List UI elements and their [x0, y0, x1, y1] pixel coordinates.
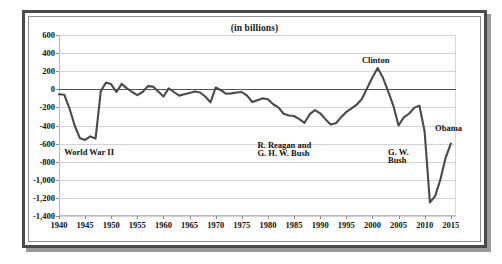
x-tick-mark — [372, 216, 373, 219]
x-tick-label: 2005 — [390, 220, 407, 230]
chart-title: (in billions) — [29, 23, 480, 33]
x-tick-mark — [451, 216, 452, 219]
x-tick-label: 1970 — [207, 220, 224, 230]
annotation-label: Clinton — [362, 55, 389, 66]
x-tick-mark — [111, 216, 112, 219]
gridline — [59, 216, 456, 217]
x-tick-mark — [294, 216, 295, 219]
x-tick-label: 2000 — [364, 220, 381, 230]
x-tick-label: 1995 — [338, 220, 355, 230]
y-tick-label: -1,200 — [33, 193, 55, 203]
plot-wrapper: 6004002000-200-400-600-800-1,000-1,200-1… — [59, 35, 456, 216]
y-tick-label: 400 — [42, 48, 55, 58]
x-tick-label: 1980 — [259, 220, 276, 230]
x-tick-label: 1975 — [233, 220, 250, 230]
y-tick-label: -400 — [39, 121, 55, 131]
y-tick-label: -200 — [39, 102, 55, 112]
x-tick-mark — [216, 216, 217, 219]
x-tick-label: 1955 — [129, 220, 146, 230]
x-tick-label: 1990 — [312, 220, 329, 230]
y-tick-label: -1,000 — [33, 175, 55, 185]
x-tick-label: 1960 — [155, 220, 172, 230]
x-tick-mark — [242, 216, 243, 219]
x-tick-mark — [85, 216, 86, 219]
annotation-label: Bush — [388, 155, 406, 166]
data-line-svg — [59, 35, 456, 216]
chart-frame-inner: (in billions) 6004002000-200-400-600-800… — [28, 16, 481, 242]
x-tick-mark — [163, 216, 164, 219]
y-tick-label: -600 — [39, 139, 55, 149]
annotation-label: G. H. W. Bush — [258, 148, 310, 159]
y-tick-label: 200 — [42, 66, 55, 76]
x-tick-label: 1965 — [181, 220, 198, 230]
chart-frame: (in billions) 6004002000-200-400-600-800… — [22, 10, 487, 248]
x-tick-mark — [346, 216, 347, 219]
x-tick-label: 2010 — [416, 220, 433, 230]
x-tick-label: 2015 — [442, 220, 459, 230]
x-tick-mark — [137, 216, 138, 219]
annotation-label: Obama — [435, 123, 462, 134]
x-tick-label: 1950 — [103, 220, 120, 230]
y-tick-label: 0 — [51, 84, 55, 94]
x-tick-mark — [320, 216, 321, 219]
y-tick-label: -800 — [39, 157, 55, 167]
x-tick-label: 1945 — [77, 220, 94, 230]
chart-figure: (in billions) 6004002000-200-400-600-800… — [0, 0, 502, 264]
x-tick-mark — [425, 216, 426, 219]
x-tick-label: 1985 — [286, 220, 303, 230]
x-tick-mark — [59, 216, 60, 219]
x-tick-label: 1940 — [51, 220, 68, 230]
annotation-label: World War II — [64, 147, 114, 158]
y-tick-label: 600 — [42, 30, 55, 40]
x-tick-mark — [190, 216, 191, 219]
x-tick-mark — [399, 216, 400, 219]
series-line-federal-deficit — [59, 68, 451, 202]
x-tick-mark — [268, 216, 269, 219]
